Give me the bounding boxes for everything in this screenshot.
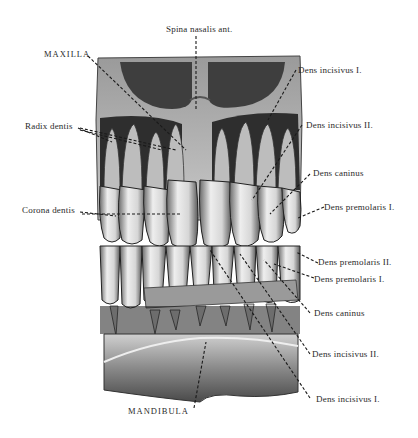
label-lower-caninus: Dens caninus — [314, 308, 365, 318]
label-lower-premolaris-1: Dens premolaris I. — [314, 274, 384, 284]
label-lower-incisivus-2: Dens incisivus II. — [312, 349, 379, 359]
label-lower-incisivus-1: Dens incisivus I. — [316, 394, 380, 404]
label-spina-nasalis: Spina nasalis ant. — [166, 24, 232, 34]
label-corona-dentis: Corona dentis — [22, 205, 75, 215]
label-radix-dentis: Radix dentis — [25, 121, 73, 131]
label-upper-incisivus-1: Dens incisivus I. — [298, 65, 362, 75]
label-upper-incisivus-2: Dens incisivus II. — [306, 120, 373, 130]
label-upper-caninus: Dens caninus — [313, 168, 364, 178]
label-maxilla: MAXILLA — [44, 49, 90, 59]
label-upper-premolaris-1: Dens premolaris I. — [324, 202, 394, 212]
label-lower-premolaris-2: Dens premolaris II. — [318, 257, 392, 267]
label-mandibula: MANDIBULA — [128, 406, 189, 416]
